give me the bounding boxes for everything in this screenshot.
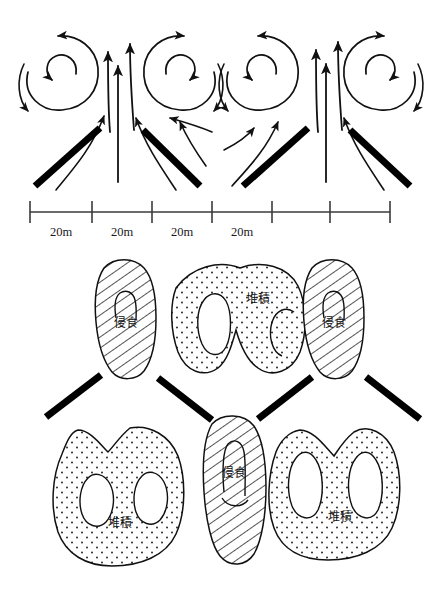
- deposition-label-upper-center: 堆積: [246, 291, 270, 306]
- erosion-zone-upper-right: 侵食: [303, 260, 364, 379]
- scale-segment-label-1: 20m: [50, 225, 73, 239]
- deposition-zone-lower-left: 堆積: [53, 427, 184, 566]
- deposition-label-lower-right: 堆積: [328, 509, 352, 524]
- scale-segment-label-3: 20m: [171, 225, 194, 239]
- erosion-label-upper-right: 侵食: [322, 315, 346, 330]
- deposition-label-lower-left: 堆積: [108, 515, 132, 530]
- scale-segment-label-4: 20m: [231, 225, 254, 239]
- erosion-zone-lower-center: 侵食: [203, 416, 266, 564]
- river-bed-flow-figure: 20m 20m 20m 20m 侵食 堆積 侵食: [0, 0, 431, 605]
- erosion-label-upper-left: 侵食: [114, 315, 138, 330]
- erosion-zone-upper-left: 侵食: [95, 260, 156, 379]
- scale-segment-label-2: 20m: [111, 225, 134, 239]
- erosion-label-lower-center: 侵食: [222, 465, 246, 480]
